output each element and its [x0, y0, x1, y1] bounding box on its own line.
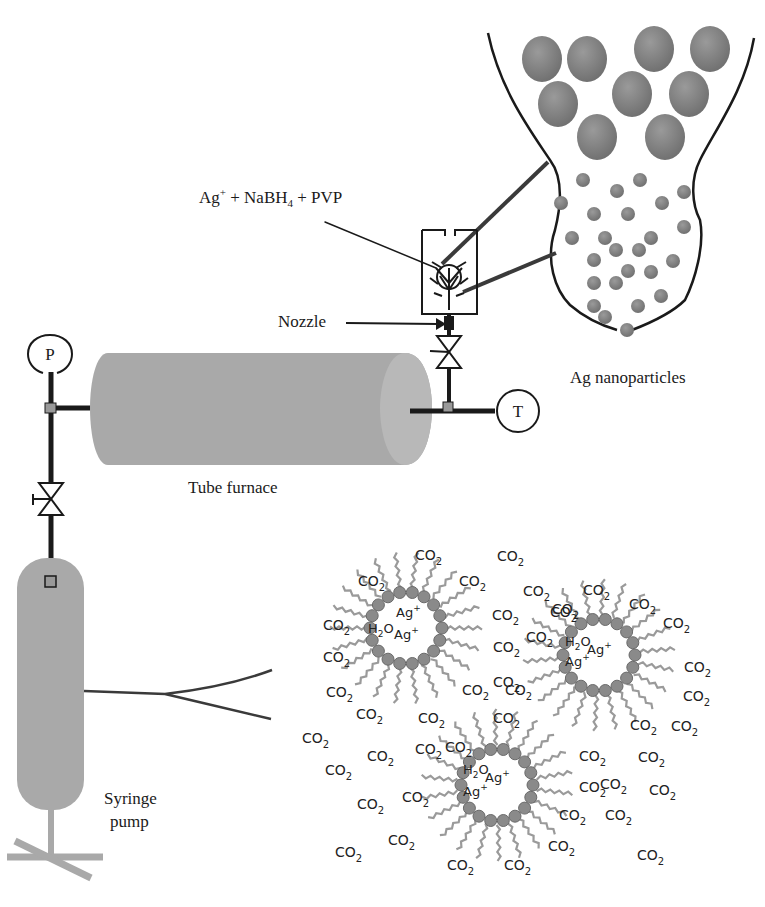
co2-label: CO2	[462, 683, 489, 697]
surfactant-head	[611, 680, 623, 692]
surfactant-head	[587, 685, 599, 697]
surfactant-head	[519, 802, 531, 814]
surfactant-tail	[355, 657, 379, 684]
co2-label: CO2	[523, 584, 550, 598]
co2-label: CO2	[504, 858, 531, 872]
nozzle-pointer	[346, 323, 438, 324]
pressure-gauge-label: P	[45, 345, 54, 364]
surfactant-head	[394, 658, 406, 670]
surfactant-tail	[428, 801, 460, 818]
surfactant-head	[463, 802, 475, 814]
surfactant-head	[382, 653, 394, 665]
silver-ion-label: Ag+	[394, 628, 419, 641]
silver-ion-label: Ag+	[396, 606, 421, 619]
tube-furnace-label: Tube furnace	[188, 479, 278, 498]
surfactant-tail	[422, 775, 458, 782]
surfactant-head	[525, 767, 537, 779]
co2-label: CO2	[684, 660, 711, 674]
surfactant-tail	[431, 659, 455, 686]
temperature-gauge-icon: T	[497, 390, 539, 432]
surfactant-head	[434, 634, 446, 646]
reagent-pointer	[325, 222, 436, 268]
surfactant-tail	[441, 588, 471, 608]
surfactant-head	[485, 815, 497, 827]
surfactant-tail	[638, 662, 673, 671]
surfactant-tail	[421, 665, 437, 698]
surfactant-tail	[439, 651, 469, 671]
surfactant-head	[621, 626, 633, 638]
co2-label: CO2	[459, 574, 486, 588]
surfactant-head	[575, 680, 587, 692]
silver-ion-label: Ag+	[587, 643, 612, 656]
co2-label: CO2	[445, 740, 472, 754]
syringe-pump-label-line2: pump	[110, 813, 149, 832]
surfactant-head	[473, 810, 485, 822]
surfactant-tail	[410, 668, 418, 704]
syringe-barrel	[17, 558, 84, 810]
magnify-line-upper	[442, 162, 548, 264]
surfactant-head	[565, 672, 577, 684]
co2-label: CO2	[447, 858, 474, 872]
co2-label: CO2	[649, 783, 676, 797]
surfactant-tail	[394, 667, 402, 703]
co2-label: CO2	[335, 845, 362, 859]
magnify-fork-line	[84, 670, 272, 719]
co2-label: CO2	[548, 839, 575, 853]
surfactant-head	[436, 622, 448, 634]
surfactant-head	[485, 744, 497, 756]
co2-label: CO2	[415, 548, 442, 562]
surfactant-tail	[497, 825, 501, 861]
surfactant-head	[527, 779, 539, 791]
surfactant-head	[497, 815, 509, 827]
surfactant-tail	[394, 553, 402, 589]
surfactant-tail	[334, 605, 369, 617]
surfactant-tail	[444, 639, 479, 651]
surfactant-tail	[538, 678, 567, 700]
surfactant-tail	[473, 712, 486, 746]
nozzle-label: Nozzle	[278, 313, 326, 332]
co2-label: CO2	[302, 731, 329, 745]
co2-label: CO2	[323, 618, 350, 632]
surfactant-tail	[572, 692, 586, 726]
surfactant-head	[509, 748, 521, 760]
syringe-port	[45, 576, 56, 587]
surfactant-head	[587, 614, 599, 626]
co2-label: CO2	[683, 689, 710, 703]
co2-label: CO2	[663, 616, 690, 630]
co2-label: CO2	[629, 597, 656, 611]
syringe-pump	[7, 558, 103, 878]
surfactant-head	[428, 645, 440, 657]
surfactant-tail	[440, 811, 467, 835]
co2-label: CO2	[638, 750, 665, 764]
surfactant-tail	[607, 694, 617, 729]
surfactant-head	[418, 653, 430, 665]
co2-label: CO2	[492, 608, 519, 622]
co2-label: CO2	[497, 549, 524, 563]
nanoparticles-label: Ag nanoparticles	[570, 369, 686, 388]
co2-label: CO2	[505, 683, 532, 697]
surfactant-tail	[613, 584, 627, 618]
surfactant-tail	[333, 638, 368, 650]
co2-label: CO2	[579, 780, 606, 794]
co2-label: CO2	[559, 808, 586, 822]
surfactant-head	[428, 599, 440, 611]
surfactant-tail	[508, 824, 521, 858]
surfactant-head	[473, 748, 485, 760]
spray-plume	[430, 262, 468, 310]
co2-label: CO2	[637, 848, 664, 862]
surfactant-tail	[433, 572, 457, 599]
surfactant-head	[509, 810, 521, 822]
surfactant-head	[599, 614, 611, 626]
surfactant-head	[394, 587, 406, 599]
surfactant-tail	[593, 695, 598, 731]
surfactant-head	[519, 756, 531, 768]
surfactant-head	[372, 645, 384, 657]
surfactant-tail	[445, 606, 480, 618]
surfactant-tail	[537, 771, 573, 780]
surfactant-head	[627, 637, 639, 649]
co2-label: CO2	[415, 742, 442, 756]
supercritical-co2-synthesis-diagram: T P	[0, 0, 765, 907]
co2-label: CO2	[579, 749, 606, 763]
surfactant-tail	[553, 686, 574, 715]
surfactant-head	[629, 649, 641, 661]
